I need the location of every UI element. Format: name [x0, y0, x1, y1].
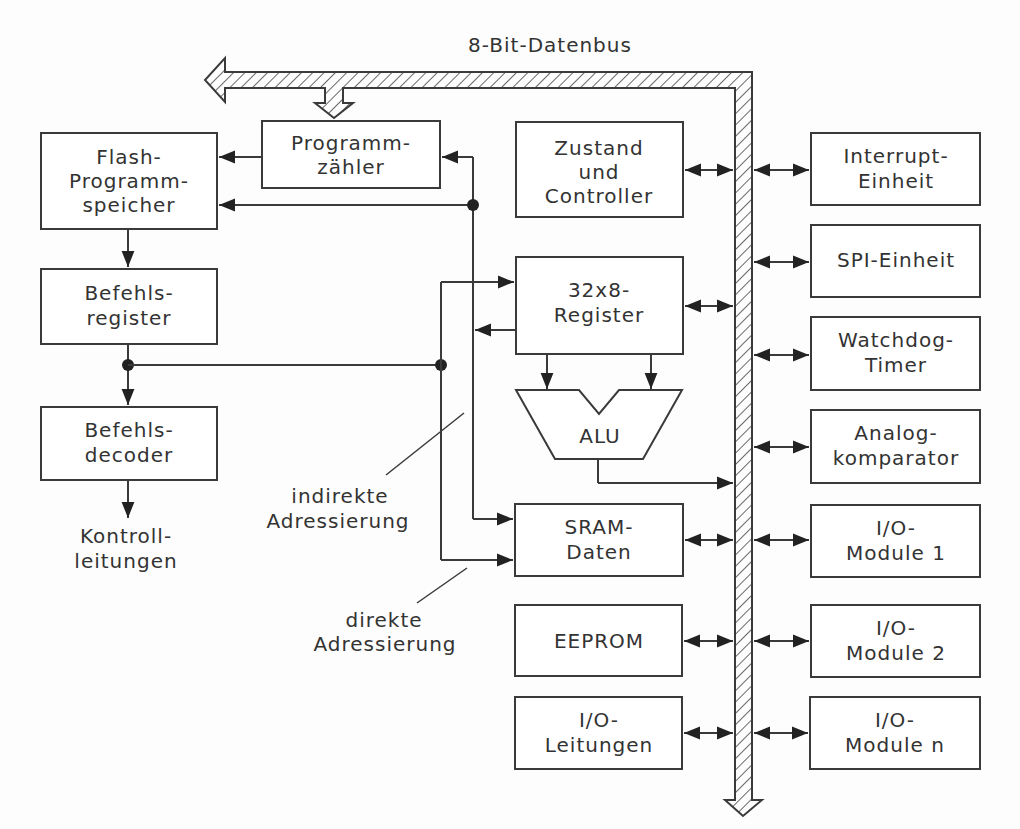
control-lines-label-2: leitungen: [74, 549, 177, 573]
eeprom-label: EEPROM: [554, 629, 644, 653]
m2-label-1: I/O-: [876, 616, 916, 640]
wdt-label-2: Timer: [864, 353, 927, 377]
iol-label-2: Leitungen: [545, 733, 654, 757]
ana-label-1: Analog-: [854, 421, 937, 445]
int-label-2: Einheit: [858, 169, 934, 193]
control-lines-label-1: Kontroll-: [80, 524, 172, 548]
iol-label-1: I/O-: [579, 708, 619, 732]
m1-label-2: Module 1: [846, 541, 946, 565]
direct-addressing-label-2: Adressierung: [313, 632, 456, 656]
flash-label-2: Programm-: [69, 169, 189, 193]
spi-label: SPI-Einheit: [837, 248, 955, 272]
ir-label-2: register: [86, 306, 171, 330]
bus-label: 8-Bit-Datenbus: [468, 33, 632, 57]
wdt-label-1: Watchdog-: [838, 328, 954, 352]
pc-label-1: Programm-: [291, 131, 411, 155]
flash-label-1: Flash-: [96, 145, 162, 169]
indirect-addressing-label-1: indirekte: [291, 484, 388, 508]
sram-label-1: SRAM-: [565, 515, 634, 539]
m1-label-1: I/O-: [876, 516, 916, 540]
ana-label-2: komparator: [833, 446, 959, 470]
ir-label-1: Befehls-: [84, 281, 173, 305]
reg-label-1: 32x8-: [568, 278, 630, 302]
pc-label-2: zähler: [317, 155, 385, 179]
m2-label-2: Module 2: [846, 641, 946, 665]
mn-label-2: Module n: [845, 733, 945, 757]
dec-label-2: decoder: [85, 443, 173, 467]
flash-label-3: speicher: [82, 193, 175, 217]
zustand-label-2: und: [578, 160, 619, 184]
reg-label-2: Register: [554, 303, 644, 327]
mn-label-1: I/O-: [875, 708, 915, 732]
int-label-1: Interrupt-: [843, 144, 948, 168]
dec-label-1: Befehls-: [84, 418, 173, 442]
connection-lines: [122, 157, 809, 733]
sram-label-2: Daten: [566, 540, 631, 564]
zustand-label-1: Zustand: [554, 136, 643, 160]
avr-block-diagram: 8-Bit-Datenbus Flash- Programm- speicher…: [0, 0, 1020, 829]
alu-label: ALU: [579, 424, 620, 448]
zustand-label-3: Controller: [545, 184, 653, 208]
indirect-addressing-label-2: Adressierung: [266, 509, 409, 533]
direct-addressing-label-1: direkte: [345, 608, 422, 632]
